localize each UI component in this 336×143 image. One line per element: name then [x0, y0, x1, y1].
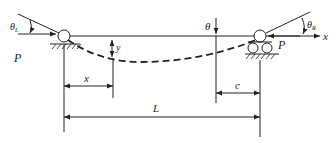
theta-mid-label: θ	[205, 20, 211, 32]
dim-x-label: x	[83, 72, 89, 84]
dim-L-label: L	[152, 102, 159, 114]
left-pin-support	[50, 30, 81, 49]
left-angle-arc	[30, 20, 32, 33]
beam-diagram: x θL P y θ P θR	[0, 0, 336, 143]
x-axis-label: x	[322, 30, 328, 42]
deflection-label: y	[115, 42, 121, 53]
load-left-label: P	[13, 51, 22, 65]
deflection-curve	[68, 40, 256, 62]
right-roller-support	[245, 30, 279, 59]
theta-left-label: θL	[10, 21, 19, 33]
left-inclined-force-line	[18, 14, 59, 33]
dim-c-label: c	[235, 79, 240, 91]
load-right-label: P	[277, 38, 286, 52]
right-angle-arc	[302, 18, 304, 34]
theta-right-label: θR	[307, 19, 316, 31]
